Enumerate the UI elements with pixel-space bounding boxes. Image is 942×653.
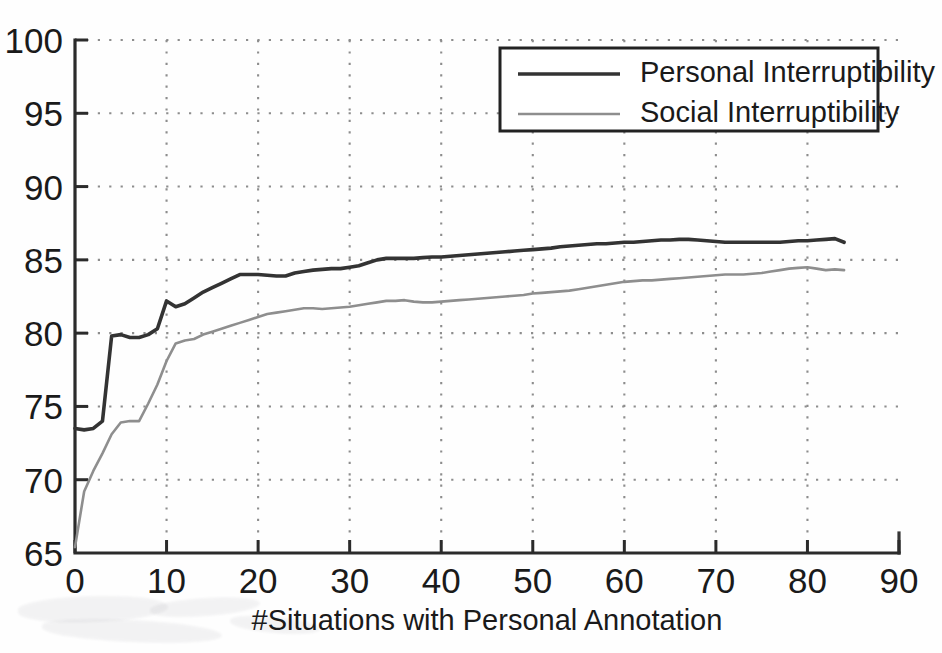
x-tick-label: 80	[788, 561, 827, 600]
y-tick-label: 90	[24, 168, 63, 207]
legend-label: Social Interruptibility	[640, 96, 900, 128]
y-tick-label: 70	[24, 461, 63, 500]
x-axis-ticks	[75, 540, 899, 553]
x-tick-label: 20	[239, 561, 278, 600]
y-tick-label: 75	[24, 387, 63, 426]
y-tick-label: 100	[5, 21, 63, 60]
legend-label: Personal Interruptibility	[640, 56, 935, 88]
x-tick-label: 60	[605, 561, 644, 600]
data-series-group	[75, 239, 844, 548]
x-tick-label: 70	[696, 561, 735, 600]
x-tick-labels: 0102030405060708090	[65, 561, 918, 600]
x-tick-label: 10	[147, 561, 186, 600]
x-tick-label: 0	[65, 561, 84, 600]
y-tick-label: 65	[24, 534, 63, 573]
legend: Personal InterruptibilitySocial Interrup…	[500, 48, 935, 131]
y-tick-label: 95	[24, 94, 63, 133]
chart-figure: 0102030405060708090 65707580859095100 Pe…	[0, 0, 942, 653]
x-tick-label: 30	[330, 561, 369, 600]
x-tick-label: 50	[513, 561, 552, 600]
chart-plot-area: 0102030405060708090 65707580859095100 Pe…	[0, 0, 942, 653]
x-axis-title: #Situations with Personal Annotation	[252, 604, 723, 636]
x-tick-label: 40	[422, 561, 461, 600]
y-tick-label: 80	[24, 314, 63, 353]
y-tick-label: 85	[24, 241, 63, 280]
y-axis-ticks	[75, 40, 88, 480]
x-tick-label: 90	[880, 561, 919, 600]
y-tick-labels: 65707580859095100	[5, 21, 63, 573]
series-line-personal	[75, 239, 844, 430]
